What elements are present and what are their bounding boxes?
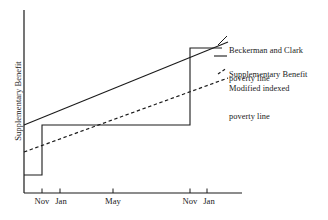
legend-connector-modified-icon [218, 68, 227, 74]
chart-figure: Supplementary Benefit Nov Jan May Nov Ja… [0, 0, 328, 220]
x-axis-ticks [42, 189, 207, 194]
legend-item-modified: Modified indexed poverty line [229, 66, 290, 140]
series-supplementary-benefit [24, 48, 222, 175]
x-tick-label-jan-2: Jan [203, 196, 214, 206]
legend-item-modified-line2: poverty line [229, 112, 290, 121]
x-tick-label-nov-1: Nov [35, 196, 50, 206]
x-tick-label-nov-2: Nov [183, 196, 198, 206]
series-beckerman-and-clark-poverty-line [24, 42, 228, 125]
x-tick-label-may: May [105, 196, 121, 206]
legend-item-modified-line1: Modified indexed [229, 84, 290, 93]
series-modified-indexed-poverty-line [24, 78, 228, 152]
y-axis-label: Supplementary Benefit [13, 51, 23, 151]
x-tick-label-jan-1: Jan [55, 196, 66, 206]
